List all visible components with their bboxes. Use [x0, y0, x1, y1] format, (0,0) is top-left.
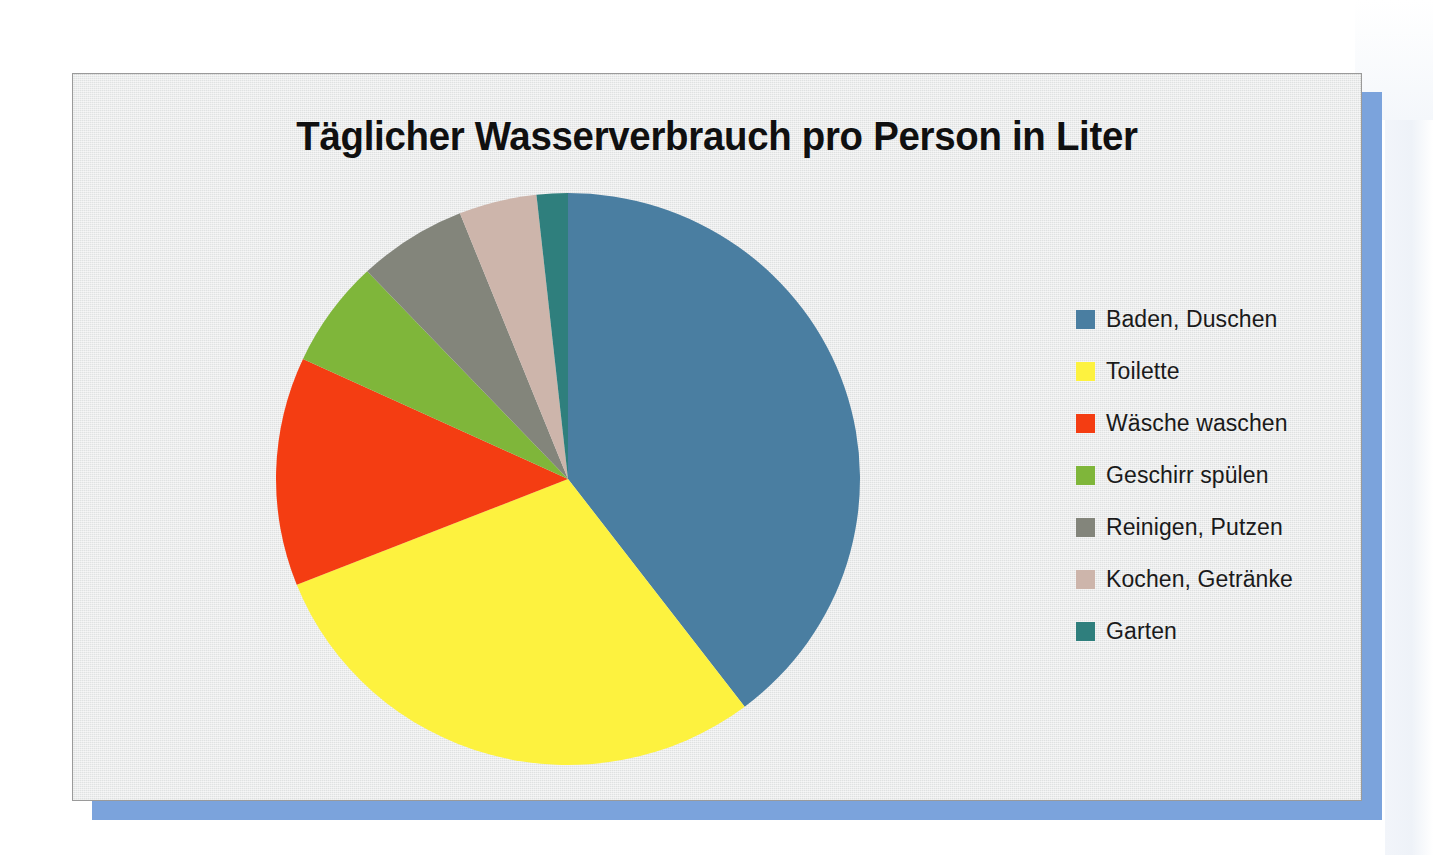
legend-label: Geschirr spülen	[1106, 462, 1269, 489]
legend-swatch-icon	[1076, 362, 1095, 381]
legend-swatch-icon	[1076, 622, 1095, 641]
legend-label: Reinigen, Putzen	[1106, 514, 1283, 541]
chart-title: Täglicher Wasserverbrauch pro Person in …	[99, 114, 1335, 159]
legend-item[interactable]: Garten	[1076, 618, 1346, 645]
pie-chart	[276, 193, 860, 765]
legend-label: Baden, Duschen	[1106, 306, 1277, 333]
legend-label: Kochen, Getränke	[1106, 566, 1293, 593]
screenshot-root: Täglicher Wasserverbrauch pro Person in …	[0, 0, 1433, 855]
legend-label: Toilette	[1106, 358, 1180, 385]
legend-item[interactable]: Kochen, Getränke	[1076, 566, 1346, 593]
pie-slices	[276, 193, 860, 765]
legend-item[interactable]: Toilette	[1076, 358, 1346, 385]
legend-swatch-icon	[1076, 310, 1095, 329]
chart-legend: Baden, DuschenToiletteWäsche waschenGesc…	[1076, 306, 1346, 670]
pie-chart-svg	[276, 193, 860, 765]
chart-panel: Täglicher Wasserverbrauch pro Person in …	[72, 73, 1362, 801]
page-background-tint	[1385, 0, 1433, 855]
legend-label: Wäsche waschen	[1106, 410, 1288, 437]
legend-label: Garten	[1106, 618, 1177, 645]
legend-item[interactable]: Baden, Duschen	[1076, 306, 1346, 333]
legend-item[interactable]: Reinigen, Putzen	[1076, 514, 1346, 541]
legend-item[interactable]: Wäsche waschen	[1076, 410, 1346, 437]
legend-swatch-icon	[1076, 414, 1095, 433]
legend-swatch-icon	[1076, 570, 1095, 589]
legend-item[interactable]: Geschirr spülen	[1076, 462, 1346, 489]
legend-swatch-icon	[1076, 518, 1095, 537]
legend-swatch-icon	[1076, 466, 1095, 485]
